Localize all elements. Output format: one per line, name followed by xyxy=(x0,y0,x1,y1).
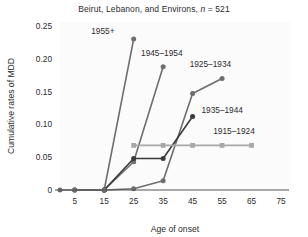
y-tick-0.20: 0.20 xyxy=(36,54,53,64)
data-point xyxy=(161,156,166,161)
data-point xyxy=(161,64,166,69)
x-tick-65: 65 xyxy=(247,196,257,206)
data-point xyxy=(190,114,195,119)
series-label-1955+: 1955+ xyxy=(91,26,114,36)
data-point xyxy=(220,76,225,81)
series-label-1915-1924: 1915–1924 xyxy=(213,126,255,136)
data-point xyxy=(131,156,136,161)
x-axis-title: Age of onset xyxy=(151,224,200,234)
data-point xyxy=(131,37,136,42)
series-label-1935-1944: 1935–1944 xyxy=(201,105,243,115)
y-tick-0.10: 0.10 xyxy=(36,119,53,129)
y-axis-title: Cumulative rates of MDD xyxy=(6,58,16,154)
plot-area: 51525354555657500.050.100.150.200.25 195… xyxy=(0,0,308,237)
data-point xyxy=(190,143,195,148)
data-point xyxy=(220,143,225,148)
x-tick-55: 55 xyxy=(217,196,227,206)
series-label-1945-1954: 1945–1954 xyxy=(141,48,183,58)
x-tick-5: 5 xyxy=(72,196,77,206)
data-point xyxy=(190,91,195,96)
x-tick-75: 75 xyxy=(276,196,286,206)
y-tick-0.25: 0.25 xyxy=(36,21,53,31)
data-point xyxy=(161,178,166,183)
y-tick-0: 0 xyxy=(47,185,52,195)
chart-container: Beirut, Lebanon, and Environs, n = 521 5… xyxy=(0,0,308,237)
x-tick-35: 35 xyxy=(159,196,169,206)
x-tick-25: 25 xyxy=(129,196,139,206)
data-point xyxy=(131,143,136,148)
x-tick-45: 45 xyxy=(188,196,198,206)
x-tick-15: 15 xyxy=(100,196,110,206)
y-tick-0.05: 0.05 xyxy=(36,152,53,162)
series-label-1925-1934: 1925–1934 xyxy=(190,59,232,69)
y-tick-0.15: 0.15 xyxy=(36,87,53,97)
data-point xyxy=(249,143,254,148)
data-point xyxy=(161,143,166,148)
